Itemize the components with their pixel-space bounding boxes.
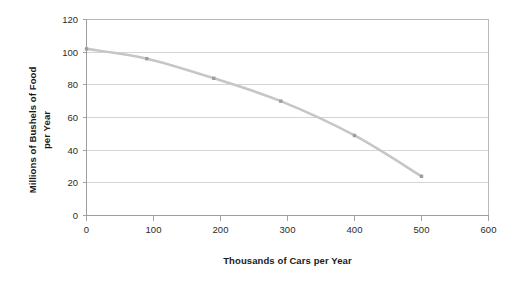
y-tick-label-100: 100	[62, 47, 78, 58]
x-tick-label-200: 200	[213, 224, 229, 235]
data-point-2	[212, 77, 215, 80]
y-tick-label-80: 80	[67, 79, 78, 90]
chart-container: 120 100 80 60 40 20 0 0 100 200 300 400 …	[0, 0, 528, 284]
data-point-5	[420, 175, 423, 178]
x-tick-label-0: 0	[84, 224, 89, 235]
y-axis-title-line1: Millions of Bushels of Food	[27, 67, 38, 194]
x-tick-label-600: 600	[481, 224, 497, 235]
data-point-3	[279, 99, 282, 102]
x-tick-label-300: 300	[280, 224, 296, 235]
x-axis-title: Thousands of Cars per Year	[223, 255, 352, 266]
line-chart: 120 100 80 60 40 20 0 0 100 200 300 400 …	[0, 0, 528, 284]
data-point-4	[353, 134, 356, 137]
y-tick-labels: 120 100 80 60 40 20 0	[62, 14, 78, 221]
x-tick-labels: 0 100 200 300 400 500 600	[84, 224, 497, 235]
data-point-0	[85, 47, 88, 50]
x-tick-label-400: 400	[347, 224, 363, 235]
y-tick-label-60: 60	[67, 112, 78, 123]
y-tick-label-20: 20	[67, 177, 78, 188]
y-tick-label-0: 0	[73, 210, 78, 221]
y-tick-label-120: 120	[62, 14, 78, 25]
x-tick-marks	[87, 216, 489, 221]
y-axis-title-line2: per Year	[41, 111, 52, 149]
data-point-1	[145, 57, 148, 60]
y-tick-label-40: 40	[67, 145, 78, 156]
y-axis-title: Millions of Bushels of Food per Year	[27, 67, 52, 194]
x-tick-label-500: 500	[414, 224, 430, 235]
x-tick-label-100: 100	[146, 224, 162, 235]
